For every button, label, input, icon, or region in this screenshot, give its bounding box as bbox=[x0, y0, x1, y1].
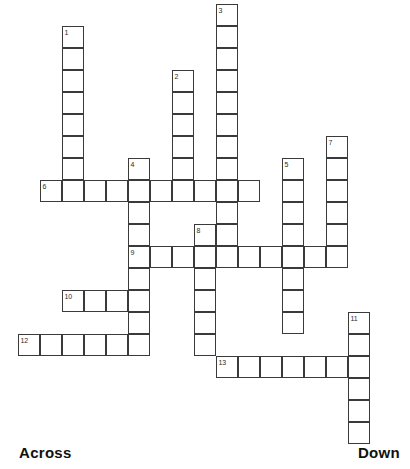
crossword-puzzle: 12345678910111213 Across Down bbox=[0, 0, 410, 469]
crossword-cell[interactable] bbox=[40, 180, 62, 202]
crossword-cell[interactable] bbox=[106, 290, 128, 312]
crossword-cell[interactable] bbox=[194, 246, 216, 268]
crossword-cell[interactable] bbox=[172, 246, 194, 268]
crossword-cell[interactable] bbox=[326, 224, 348, 246]
crossword-cell[interactable] bbox=[326, 202, 348, 224]
across-heading: Across bbox=[19, 444, 72, 461]
crossword-cell[interactable] bbox=[348, 356, 370, 378]
crossword-cell[interactable] bbox=[348, 378, 370, 400]
crossword-cell[interactable] bbox=[282, 246, 304, 268]
crossword-cell[interactable] bbox=[62, 48, 84, 70]
crossword-cell[interactable] bbox=[282, 180, 304, 202]
crossword-cell[interactable] bbox=[62, 158, 84, 180]
crossword-cell[interactable] bbox=[84, 290, 106, 312]
crossword-cell[interactable] bbox=[238, 180, 260, 202]
crossword-cell[interactable] bbox=[150, 180, 172, 202]
crossword-cell[interactable] bbox=[84, 334, 106, 356]
crossword-cell[interactable] bbox=[348, 312, 370, 334]
crossword-cell[interactable] bbox=[216, 180, 238, 202]
crossword-cell[interactable] bbox=[326, 356, 348, 378]
crossword-cell[interactable] bbox=[62, 136, 84, 158]
crossword-cell[interactable] bbox=[172, 70, 194, 92]
crossword-cell[interactable] bbox=[172, 136, 194, 158]
crossword-cell[interactable] bbox=[128, 224, 150, 246]
crossword-cell[interactable] bbox=[128, 158, 150, 180]
crossword-cell[interactable] bbox=[194, 312, 216, 334]
crossword-cell[interactable] bbox=[128, 268, 150, 290]
down-heading: Down bbox=[358, 444, 400, 461]
crossword-cell[interactable] bbox=[216, 114, 238, 136]
crossword-cell[interactable] bbox=[172, 92, 194, 114]
crossword-cell[interactable] bbox=[216, 92, 238, 114]
crossword-cell[interactable] bbox=[150, 246, 172, 268]
crossword-cell[interactable] bbox=[62, 26, 84, 48]
crossword-cell[interactable] bbox=[304, 356, 326, 378]
crossword-cell[interactable] bbox=[106, 334, 128, 356]
crossword-cell[interactable] bbox=[216, 4, 238, 26]
crossword-cell[interactable] bbox=[194, 334, 216, 356]
crossword-cell[interactable] bbox=[106, 180, 128, 202]
crossword-cell[interactable] bbox=[216, 202, 238, 224]
crossword-cell[interactable] bbox=[62, 290, 84, 312]
crossword-cell[interactable] bbox=[194, 290, 216, 312]
crossword-cell[interactable] bbox=[216, 48, 238, 70]
crossword-cell[interactable] bbox=[282, 356, 304, 378]
crossword-cell[interactable] bbox=[62, 70, 84, 92]
crossword-cell[interactable] bbox=[172, 180, 194, 202]
crossword-cell[interactable] bbox=[238, 246, 260, 268]
crossword-cell[interactable] bbox=[326, 246, 348, 268]
crossword-cell[interactable] bbox=[84, 180, 106, 202]
crossword-cell[interactable] bbox=[216, 26, 238, 48]
crossword-cell[interactable] bbox=[62, 334, 84, 356]
crossword-cell[interactable] bbox=[216, 224, 238, 246]
crossword-cell[interactable] bbox=[326, 136, 348, 158]
crossword-cell[interactable] bbox=[216, 158, 238, 180]
crossword-cell[interactable] bbox=[62, 92, 84, 114]
crossword-cell[interactable] bbox=[326, 158, 348, 180]
crossword-cell[interactable] bbox=[216, 246, 238, 268]
crossword-cell[interactable] bbox=[348, 422, 370, 444]
crossword-cell[interactable] bbox=[216, 70, 238, 92]
crossword-cell[interactable] bbox=[128, 180, 150, 202]
crossword-cell[interactable] bbox=[194, 180, 216, 202]
crossword-cell[interactable] bbox=[128, 202, 150, 224]
crossword-cell[interactable] bbox=[348, 400, 370, 422]
crossword-grid[interactable]: 12345678910111213 bbox=[0, 0, 410, 469]
crossword-cell[interactable] bbox=[18, 334, 40, 356]
crossword-cell[interactable] bbox=[172, 158, 194, 180]
crossword-cell[interactable] bbox=[128, 246, 150, 268]
crossword-cell[interactable] bbox=[62, 180, 84, 202]
crossword-cell[interactable] bbox=[128, 312, 150, 334]
crossword-cell[interactable] bbox=[282, 202, 304, 224]
crossword-cell[interactable] bbox=[282, 158, 304, 180]
crossword-cell[interactable] bbox=[260, 246, 282, 268]
crossword-cell[interactable] bbox=[194, 224, 216, 246]
crossword-cell[interactable] bbox=[238, 356, 260, 378]
crossword-cell[interactable] bbox=[282, 268, 304, 290]
crossword-cell[interactable] bbox=[128, 290, 150, 312]
crossword-cell[interactable] bbox=[216, 136, 238, 158]
crossword-cell[interactable] bbox=[282, 312, 304, 334]
crossword-cell[interactable] bbox=[260, 356, 282, 378]
crossword-cell[interactable] bbox=[62, 114, 84, 136]
crossword-cell[interactable] bbox=[216, 356, 238, 378]
crossword-cell[interactable] bbox=[40, 334, 62, 356]
crossword-cell[interactable] bbox=[282, 224, 304, 246]
crossword-cell[interactable] bbox=[282, 290, 304, 312]
crossword-cell[interactable] bbox=[128, 334, 150, 356]
crossword-cell[interactable] bbox=[304, 246, 326, 268]
crossword-cell[interactable] bbox=[326, 180, 348, 202]
crossword-cell[interactable] bbox=[194, 268, 216, 290]
crossword-cell[interactable] bbox=[172, 114, 194, 136]
crossword-cell[interactable] bbox=[348, 334, 370, 356]
